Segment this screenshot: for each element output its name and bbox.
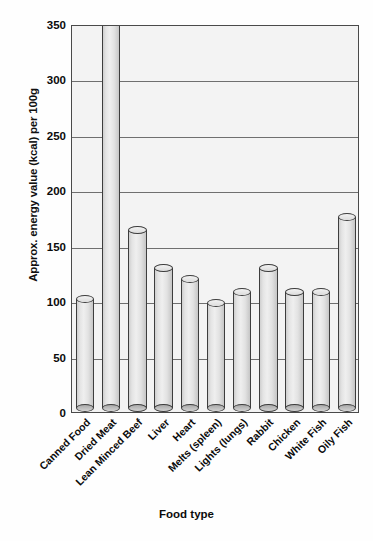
bar-top-ellipse (154, 264, 172, 272)
bar-base-ellipse (259, 404, 277, 412)
bar (259, 264, 277, 412)
bar-top-ellipse (181, 275, 199, 283)
bar (285, 288, 303, 412)
y-axis-tick-label: 100 (32, 296, 66, 308)
bar-body (154, 268, 172, 408)
bar-body (312, 292, 330, 408)
bar (102, 25, 120, 412)
bar-body (102, 25, 120, 408)
bar (207, 299, 225, 412)
y-axis-tick-label: 350 (32, 19, 66, 31)
y-axis-tick-label: 150 (32, 241, 66, 253)
y-axis-tick-label: 0 (32, 407, 66, 419)
bar-chart-figure: Approx. energy value (kcal) per 100g 050… (0, 0, 373, 541)
bar-base-ellipse (207, 404, 225, 412)
bar (128, 226, 146, 412)
y-axis-tick-label: 50 (32, 352, 66, 364)
bar-body (285, 292, 303, 408)
bar-base-ellipse (76, 404, 94, 412)
bar-body (338, 217, 356, 408)
bar-top-ellipse (76, 295, 94, 303)
bar-base-ellipse (154, 404, 172, 412)
bar-top-ellipse (128, 226, 146, 234)
bar-base-ellipse (233, 404, 251, 412)
bar-base-ellipse (312, 404, 330, 412)
y-axis-tick-label: 250 (32, 130, 66, 142)
bar (181, 275, 199, 412)
x-axis-tick-labels: Canned FoodDried MeatLean Minced BeefLiv… (71, 413, 359, 513)
bar-base-ellipse (128, 404, 146, 412)
bar (338, 213, 356, 412)
y-axis-tick-label: 200 (32, 185, 66, 197)
bar-body (259, 268, 277, 408)
bar (154, 264, 172, 412)
bar-body (233, 292, 251, 408)
bar-base-ellipse (338, 404, 356, 412)
y-axis-tick-label: 300 (32, 74, 66, 86)
bar-body (128, 230, 146, 408)
bar-base-ellipse (181, 404, 199, 412)
bar-top-ellipse (259, 264, 277, 272)
bar (76, 295, 94, 412)
bar-body (207, 303, 225, 408)
bar-body (76, 299, 94, 408)
bars-layer (72, 26, 358, 412)
bar-base-ellipse (285, 404, 303, 412)
bar-body (181, 279, 199, 408)
bar-top-ellipse (338, 213, 356, 221)
bar (233, 288, 251, 412)
x-axis-title: Food type (0, 508, 373, 520)
bar (312, 288, 330, 412)
bar-base-ellipse (102, 404, 120, 412)
plot-area (71, 25, 359, 413)
